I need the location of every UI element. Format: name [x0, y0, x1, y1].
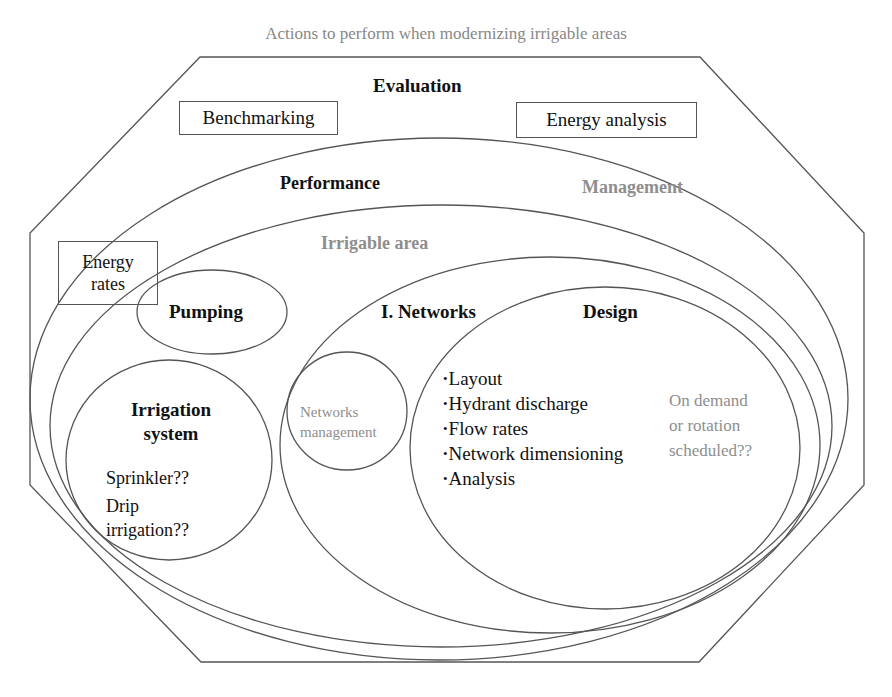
performance-label: Performance — [280, 174, 380, 192]
design-note-line3: scheduled?? — [669, 438, 752, 463]
energy-rates-box: Energy rates — [58, 241, 158, 305]
design-item: Flow rates — [443, 416, 623, 441]
irrigation-option-drip-line1: Drip — [106, 495, 189, 518]
diagram-title: Actions to perform when modernizing irri… — [0, 25, 892, 42]
design-note-line2: or rotation — [669, 413, 752, 438]
evaluation-label: Evaluation — [373, 76, 462, 95]
networks-management-line1: Networks — [300, 402, 377, 422]
irrigation-system-title-line1: Irrigation — [106, 398, 236, 422]
evaluation-octagon-frame — [30, 57, 864, 662]
design-item: Analysis — [443, 466, 623, 491]
benchmarking-label: Benchmarking — [203, 107, 315, 129]
irrigation-option-sprinkler: Sprinkler?? — [106, 467, 189, 490]
diagram-canvas — [0, 0, 892, 697]
energy-analysis-label: Energy analysis — [546, 109, 667, 131]
irrigation-option-drip-line2: irrigation?? — [106, 519, 189, 542]
benchmarking-box: Benchmarking — [179, 101, 338, 135]
management-label: Management — [582, 178, 683, 196]
irrigation-system-title: Irrigation system — [106, 398, 236, 446]
irrigation-system-title-line2: system — [106, 422, 236, 446]
energy-analysis-box: Energy analysis — [516, 102, 697, 138]
networks-management-label: Networks management — [300, 402, 377, 443]
design-note: On demand or rotation scheduled?? — [669, 388, 752, 463]
design-item: Network dimensioning — [443, 441, 623, 466]
energy-rates-line2: rates — [91, 273, 125, 296]
design-items-list: Layout Hydrant discharge Flow rates Netw… — [443, 366, 623, 491]
irrigable-area-label-text: Irrigable area — [321, 234, 428, 252]
networks-label: I. Networks — [381, 302, 476, 321]
networks-management-line2: management — [300, 422, 377, 442]
design-note-line1: On demand — [669, 388, 752, 413]
design-item: Hydrant discharge — [443, 391, 623, 416]
design-item: Layout — [443, 366, 623, 391]
irrigation-system-options: Sprinkler?? Drip irrigation?? — [106, 467, 189, 542]
pumping-label: Pumping — [169, 302, 243, 321]
energy-rates-line1: Energy — [82, 251, 134, 274]
design-label: Design — [583, 302, 638, 321]
